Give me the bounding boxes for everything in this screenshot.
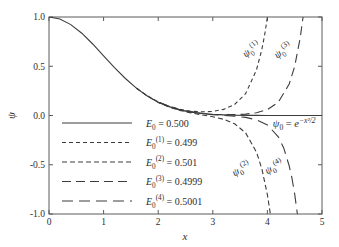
legend-entry-label: E0(2) = 0.501	[145, 155, 197, 170]
psi0-2-label: ψ0(2)	[229, 157, 254, 181]
x-tick-label: 2	[156, 217, 161, 227]
x-axis-label: x	[182, 230, 188, 242]
legend-entry-label: E0(4) = 0.5001	[145, 194, 202, 209]
wavefunction-shooting-plot: 012345 -1.0-0.50.00.51.0 E0 = 0.500E0(1)…	[0, 0, 339, 247]
legend-entry-label: E0 = 0.500	[145, 118, 189, 132]
psi0-1-label: ψ0(1)	[239, 37, 264, 62]
psi0-exact-label: ψ0 = e−x²/2	[273, 116, 316, 132]
x-tick-label: 5	[320, 217, 325, 227]
x-tick-label: 4	[265, 217, 270, 227]
legend: E0 = 0.500E0(1) = 0.499E0(2) = 0.501E0(3…	[62, 118, 202, 210]
x-tick-labels: 012345	[47, 217, 325, 227]
y-tick-label: 1.0	[33, 12, 45, 22]
curve-e0-0-500	[49, 17, 322, 116]
y-tick-labels: -1.0-0.50.00.51.0	[30, 12, 45, 219]
y-tick-label: -0.5	[30, 160, 45, 170]
y-tick-label: -1.0	[30, 209, 45, 219]
psi0-3-label: ψ0(3)	[270, 38, 295, 63]
psi0-4-label: ψ0(4)	[262, 155, 287, 179]
x-tick-label: 3	[210, 217, 215, 227]
y-tick-label: 0.0	[33, 111, 45, 121]
x-tick-label: 1	[101, 217, 106, 227]
curve-annotations: ψ0(1)ψ0(3)ψ0(2)ψ0(4)ψ0 = e−x²/2	[229, 37, 316, 181]
y-axis-label: ψ	[5, 112, 17, 119]
y-tick-label: 0.5	[33, 62, 45, 72]
chart-canvas: 012345 -1.0-0.50.00.51.0 E0 = 0.500E0(1)…	[0, 0, 339, 247]
legend-entry-label: E0(3) = 0.4999	[145, 175, 202, 190]
x-tick-label: 0	[47, 217, 52, 227]
legend-entry-label: E0(1) = 0.499	[145, 136, 197, 151]
